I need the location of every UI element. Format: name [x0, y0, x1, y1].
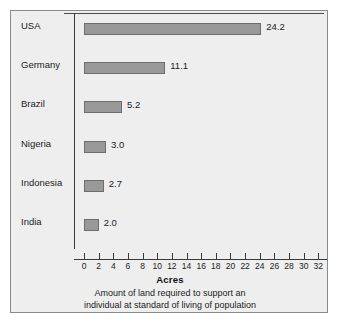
x-axis-tick: [289, 253, 290, 259]
bar-value-label: 24.2: [266, 21, 285, 33]
x-axis-tick-label: 34: [323, 261, 328, 272]
bar-row: Nigeria3.0: [11, 141, 328, 153]
x-axis-tick: [274, 253, 275, 259]
x-axis-line: [74, 259, 328, 260]
bar-row: Germany11.1: [11, 62, 328, 74]
x-axis-tick: [318, 253, 319, 259]
chart-caption: Amount of land required to support an in…: [11, 288, 328, 311]
bar-value-label: 5.2: [127, 99, 140, 111]
caption-line-1: Amount of land required to support an: [11, 288, 328, 300]
bar-row: USA24.2: [11, 23, 328, 35]
x-axis-tick: [304, 253, 305, 259]
category-label: India: [21, 216, 77, 228]
x-axis-tick: [187, 253, 188, 259]
x-axis-tick: [230, 253, 231, 259]
chart-figure: USA24.2Germany11.1Brazil5.2Nigeria3.0Ind…: [10, 10, 328, 313]
x-axis-tick: [245, 253, 246, 259]
x-axis-tick: [216, 253, 217, 259]
plot-top-rule: [64, 13, 324, 14]
bar-value-label: 3.0: [111, 139, 124, 151]
bar: [84, 180, 104, 192]
bar: [84, 23, 261, 35]
x-axis-tick: [84, 253, 85, 259]
x-axis-title: Acres: [11, 274, 328, 285]
caption-line-2: individual at standard of living of popu…: [11, 300, 328, 312]
category-label: Nigeria: [21, 138, 77, 150]
x-axis-tick: [128, 253, 129, 259]
bar-value-label: 11.1: [170, 60, 188, 72]
x-axis-tick: [201, 253, 202, 259]
x-axis-tick: [113, 253, 114, 259]
x-axis-tick: [157, 253, 158, 259]
x-axis-tick: [143, 253, 144, 259]
bar-value-label: 2.0: [104, 217, 117, 229]
bar: [84, 101, 122, 113]
bar-row: Brazil5.2: [11, 101, 328, 113]
bar: [84, 62, 165, 74]
bar-row: Indonesia2.7: [11, 180, 328, 192]
x-axis-tick: [172, 253, 173, 259]
category-label: USA: [21, 20, 77, 32]
bar-row: India2.0: [11, 219, 328, 231]
category-label: Brazil: [21, 98, 77, 110]
bar: [84, 141, 106, 153]
x-axis-tick: [99, 253, 100, 259]
x-axis-tick: [260, 253, 261, 259]
bar-value-label: 2.7: [109, 178, 122, 190]
plot-area: [64, 13, 324, 249]
category-label: Indonesia: [21, 177, 77, 189]
category-label: Germany: [21, 59, 77, 71]
value-axis-line: [74, 13, 75, 249]
bar: [84, 219, 99, 231]
